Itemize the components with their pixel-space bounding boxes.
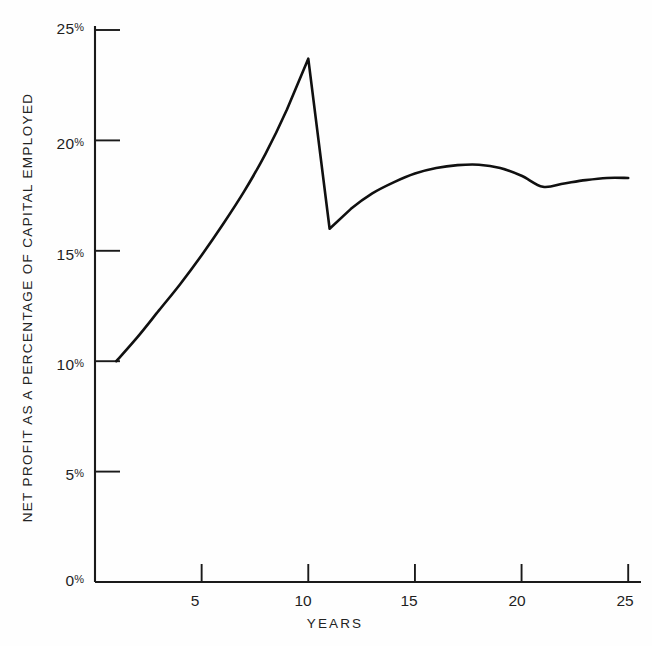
x-tick-marks <box>202 564 629 582</box>
chart-canvas <box>0 0 652 646</box>
data-series-line <box>116 59 628 362</box>
x-axis-title-container: YEARS <box>0 616 652 631</box>
chart-figure: NET PROFIT AS A PERCENTAGE OF CAPITAL EM… <box>0 0 652 646</box>
x-axis-title: YEARS <box>307 616 363 631</box>
axes-group <box>95 26 641 582</box>
y-tick-marks <box>95 30 120 472</box>
